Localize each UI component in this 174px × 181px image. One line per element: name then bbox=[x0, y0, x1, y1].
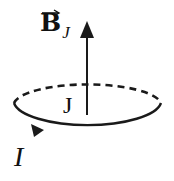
field-vector-label: BJ bbox=[40, 10, 69, 35]
current-label: I bbox=[14, 143, 23, 171]
vector-arrow-icon bbox=[41, 9, 61, 17]
field-vector-subscript: J bbox=[62, 23, 70, 42]
current-direction-arrowhead-icon bbox=[31, 124, 44, 137]
diagram-canvas bbox=[0, 0, 174, 181]
loop-label: J bbox=[63, 93, 72, 117]
field-arrow-head-icon bbox=[80, 21, 94, 38]
current-loop-diagram: BJ J I bbox=[0, 0, 174, 181]
